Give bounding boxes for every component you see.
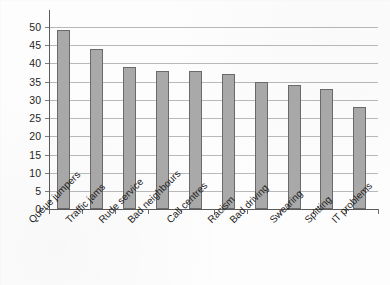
x-tick-label-call-centres: Call centres xyxy=(165,181,209,225)
y-tick-label-30: 30 xyxy=(15,95,41,106)
bar-chart: 50 45 40 35 30 25 20 15 10 5 0 Queue jum… xyxy=(0,0,390,285)
gridline-50 xyxy=(49,27,378,28)
y-axis-line xyxy=(49,10,50,210)
y-tick-label-25: 25 xyxy=(15,113,41,124)
y-tick-label-10: 10 xyxy=(15,168,41,179)
y-tick-label-40: 40 xyxy=(15,58,41,69)
gridline-45 xyxy=(49,45,378,46)
bar-racism xyxy=(222,74,235,209)
y-tick-label-15: 15 xyxy=(15,150,41,161)
y-tick-label-45: 45 xyxy=(15,40,41,51)
bar-spitting xyxy=(320,89,333,209)
y-tick-label-20: 20 xyxy=(15,131,41,142)
y-tick-label-50: 50 xyxy=(15,22,41,33)
y-tick-label-5: 5 xyxy=(15,186,41,197)
x-tickmark-10 xyxy=(378,209,379,214)
y-tick-label-35: 35 xyxy=(15,77,41,88)
